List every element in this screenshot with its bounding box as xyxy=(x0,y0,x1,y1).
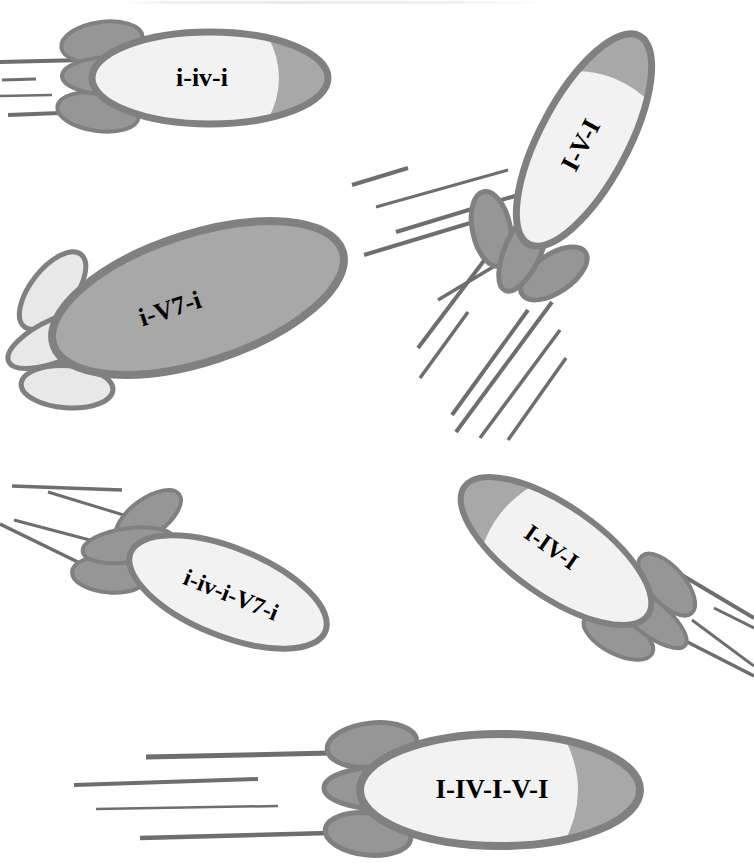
rocket-body-i-iv-i: i-iv-i xyxy=(55,16,350,138)
rocket-body-i-v7-i: i-V7-i xyxy=(0,160,367,438)
rocket-i-v7-i: i-V7-i xyxy=(0,160,528,438)
rocket-I-IV-I-V-I: I-IV-I-V-I xyxy=(74,718,670,862)
rocket-label-I-IV-I-V-I: I-IV-I-V-I xyxy=(436,774,549,804)
rocket-I-V-I: I-V-I xyxy=(418,0,712,440)
rocket-label-i-iv-i: i-iv-i xyxy=(176,63,228,92)
rocket-illustration-canvas: i-iv-i xyxy=(0,0,754,863)
rocket-body-I-IV-I-V-I: I-IV-I-V-I xyxy=(323,718,670,862)
rocket-i-iv-i: i-iv-i xyxy=(0,16,350,138)
rocket-i-iv-i-v7-i: i-iv-i-V7-i xyxy=(0,457,356,684)
speed-lines-I-IV-I-V-I xyxy=(74,753,332,838)
rocket-I-IV-I: I-IV-I xyxy=(407,419,754,692)
rocket-body-I-IV-I: I-IV-I xyxy=(407,419,724,692)
rocket-figure: i-iv-i xyxy=(0,0,754,863)
